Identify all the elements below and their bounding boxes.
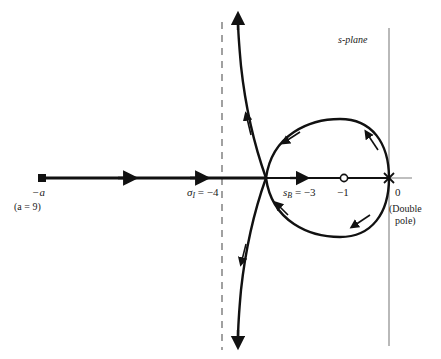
locus-loop-upper: [266, 119, 389, 178]
asymptote-sigma-value: = −4: [198, 186, 219, 198]
label-pole-a-value: (a = 9): [14, 201, 41, 213]
root-locus-plot: [0, 0, 441, 359]
s-plane-text: s-plane: [338, 34, 367, 45]
root-locus-figure: −a (a = 9) σI = −4 sB = −3 −1 0 (Double …: [0, 0, 441, 359]
direction-arrow-icon: [352, 215, 370, 227]
locus-branch-upper: [238, 20, 266, 178]
double-pole-note-line1: (Double: [389, 203, 422, 215]
breakaway-subscript: B: [287, 191, 292, 200]
pole-marker-minus-a: [38, 174, 46, 182]
asymptote-sigma-subscript: I: [192, 191, 195, 200]
label-origin: 0: [395, 186, 401, 199]
label-double-pole-note: (Double pole): [389, 203, 422, 226]
double-pole-note-line2: pole): [389, 215, 422, 227]
label-breakaway-point: sB = −3: [283, 186, 316, 200]
zero-marker-minus-one: [340, 174, 347, 181]
label-s-plane: s-plane: [338, 34, 367, 46]
label-asymptote-sigma: σI = −4: [187, 186, 219, 200]
label-zero-minus-one: −1: [337, 186, 349, 199]
breakaway-value: = −3: [295, 186, 316, 198]
label-pole-minus-a: −a: [32, 186, 45, 199]
